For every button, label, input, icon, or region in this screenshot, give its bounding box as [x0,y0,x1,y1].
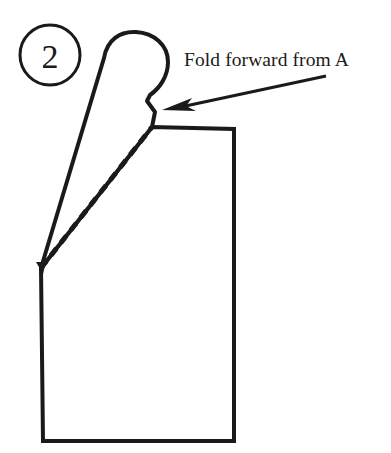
figure-canvas: 2 Fold forward from A [0,0,391,453]
step-badge-label: 2 [42,38,59,75]
caption-label: Fold forward from A [184,49,349,70]
instruction-figure: 2 Fold forward from A [0,0,391,453]
